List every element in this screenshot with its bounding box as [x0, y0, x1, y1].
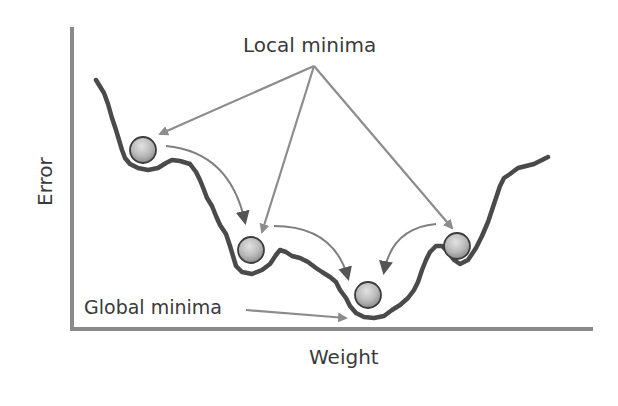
descent-arrow-1 [166, 146, 245, 222]
y-axis-label: Error [33, 156, 57, 206]
ball-global [355, 282, 381, 308]
x-axis-label: Weight [309, 345, 379, 369]
global-minima-label: Global minima [84, 296, 222, 318]
ball-local-3 [444, 233, 470, 259]
error-curve [96, 80, 548, 318]
descent-arrow-3 [384, 224, 436, 272]
local-minima-label: Local minima [243, 33, 376, 57]
ball-local-1 [130, 137, 156, 163]
error-surface-diagram: Local minima Global minima Weight Error [0, 0, 618, 406]
pointer-arrow-local-3 [314, 66, 452, 228]
ball-local-2 [238, 237, 264, 263]
pointer-arrow-global [246, 310, 346, 318]
pointer-arrow-local-1 [160, 66, 314, 134]
pointer-arrow-local-2 [262, 66, 314, 232]
